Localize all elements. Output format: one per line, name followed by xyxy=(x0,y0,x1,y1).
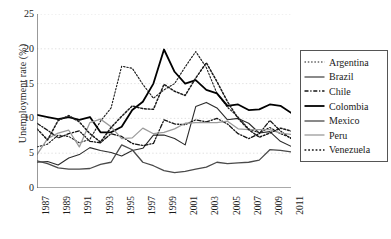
legend-line-sample-venezuela xyxy=(304,145,325,155)
legend-line-sample-chile xyxy=(304,86,325,96)
legend-label: Colombia xyxy=(329,101,368,112)
legend-label: Mexico xyxy=(329,115,360,126)
y-tick-label: 5 xyxy=(12,148,34,158)
x-tick-label: 2011 xyxy=(295,196,305,215)
x-tick-label: 2005 xyxy=(232,196,242,215)
data-series-layer xyxy=(37,50,291,173)
legend-item-chile[interactable]: Chile xyxy=(304,84,384,99)
series-line-mexico xyxy=(37,145,291,173)
legend-line-sample-peru xyxy=(304,130,325,140)
legend-label: Argentina xyxy=(329,57,369,68)
legend-line-sample-brazil xyxy=(304,72,325,82)
legend-item-venezuela[interactable]: Venezuela xyxy=(304,143,384,158)
x-tick-label: 1993 xyxy=(105,196,115,215)
x-tick-label: 2007 xyxy=(253,196,263,215)
legend-label: Peru xyxy=(329,130,347,141)
x-tick-label: 1991 xyxy=(83,196,93,215)
legend-item-colombia[interactable]: Colombia xyxy=(304,99,384,114)
x-tick-label: 1989 xyxy=(62,196,72,215)
chart-canvas xyxy=(37,14,291,188)
y-tick-label: 15 xyxy=(12,79,34,89)
y-tick-label: 25 xyxy=(12,9,34,19)
series-line-brazil xyxy=(37,102,291,165)
y-axis-tick-labels: 0510152025 xyxy=(6,0,34,239)
x-tick-label: 1987 xyxy=(41,196,51,215)
y-tick-label: 10 xyxy=(12,113,34,123)
x-tick-label: 1999 xyxy=(168,196,178,215)
legend-item-brazil[interactable]: Brazil xyxy=(304,70,384,85)
legend-label: Venezuela xyxy=(329,144,370,155)
unemployment-rate-line-chart: Unemployment rate (%) 0510152025 1987198… xyxy=(0,0,391,239)
y-tick-label: 0 xyxy=(12,183,34,193)
legend-item-argentina[interactable]: Argentina xyxy=(304,55,384,70)
legend-line-sample-colombia xyxy=(304,101,325,111)
legend-line-sample-mexico xyxy=(304,116,325,126)
x-tick-label: 2009 xyxy=(274,196,284,215)
legend-line-sample-argentina xyxy=(304,57,325,67)
y-tick-label: 20 xyxy=(12,44,34,54)
x-tick-label: 2001 xyxy=(189,196,199,215)
x-tick-label: 1995 xyxy=(126,196,136,215)
legend-item-mexico[interactable]: Mexico xyxy=(304,113,384,128)
x-axis-tick-labels: 1987198919911993199519971999200120032005… xyxy=(37,190,293,238)
legend[interactable]: ArgentinaBrazilChileColombiaMexicoPeruVe… xyxy=(300,50,388,162)
plot-area xyxy=(37,14,291,188)
legend-item-peru[interactable]: Peru xyxy=(304,128,384,143)
legend-label: Chile xyxy=(329,86,351,97)
legend-label: Brazil xyxy=(329,71,353,82)
x-tick-label: 1997 xyxy=(147,196,157,215)
x-tick-label: 2003 xyxy=(210,196,220,215)
